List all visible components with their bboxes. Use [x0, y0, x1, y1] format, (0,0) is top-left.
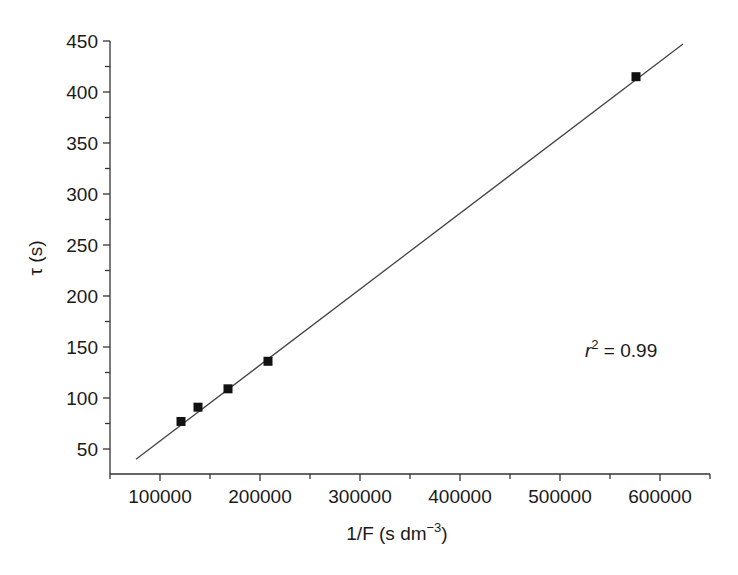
y-tick-label: 150	[66, 337, 98, 358]
y-tick-label: 400	[66, 82, 98, 103]
y-tick-label: 350	[66, 133, 98, 154]
y-tick-label: 250	[66, 235, 98, 256]
x-axis-title: 1/F (s dm−3)	[346, 520, 447, 544]
y-tick-label: 100	[66, 388, 98, 409]
chart: 1000002000003000004000005000006000005010…	[0, 0, 738, 575]
data-points	[177, 72, 641, 426]
x-tick-label: 200000	[228, 486, 291, 507]
data-point-square	[632, 72, 641, 81]
x-tick-label: 500000	[528, 486, 591, 507]
y-axis-title: τ (s)	[25, 241, 46, 276]
data-point-square	[194, 403, 203, 412]
data-point-square	[224, 384, 233, 393]
r-squared-annotation: r2 = 0.99	[585, 337, 657, 361]
data-point-square	[264, 357, 273, 366]
y-tick-label: 50	[77, 439, 98, 460]
y-tick-label: 200	[66, 286, 98, 307]
x-tick-label: 600000	[628, 486, 691, 507]
x-tick-label: 100000	[128, 486, 191, 507]
tick-labels: 1000002000003000004000005000006000005010…	[66, 31, 691, 507]
x-tick-label: 400000	[428, 486, 491, 507]
x-tick-label: 300000	[328, 486, 391, 507]
regression-line	[136, 44, 683, 459]
data-point-square	[177, 417, 186, 426]
fit-line	[136, 44, 683, 459]
y-tick-label: 450	[66, 31, 98, 52]
y-tick-label: 300	[66, 184, 98, 205]
